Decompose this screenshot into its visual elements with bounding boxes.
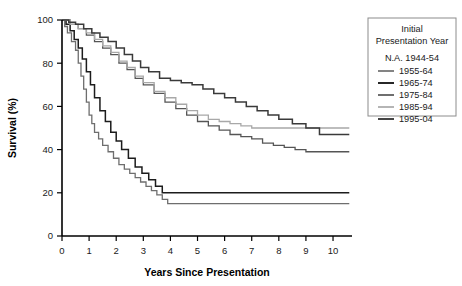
legend-label-1955-64: 1955-64 xyxy=(399,66,433,76)
x-tick-label: 4 xyxy=(168,245,173,256)
y-tick-group: 020406080100 xyxy=(37,14,62,241)
plot-area xyxy=(62,20,349,204)
y-tick-label: 60 xyxy=(42,101,53,112)
survival-chart: 020406080100 Survival (%) 012345678910 Y… xyxy=(0,0,462,286)
legend-title-line2: Presentation Year xyxy=(376,36,449,46)
x-tick-label: 2 xyxy=(114,245,119,256)
x-tick-label: 8 xyxy=(276,245,281,256)
x-tick-label: 10 xyxy=(328,245,339,256)
x-tick-label: 6 xyxy=(222,245,227,256)
y-axis-title: Survival (%) xyxy=(6,98,18,158)
x-tick-label: 0 xyxy=(59,245,64,256)
legend-item-na: N.A. 1944-54 xyxy=(385,53,439,63)
legend-label-1965-74: 1965-74 xyxy=(399,78,433,88)
x-tick-label: 5 xyxy=(195,245,200,256)
legend-label-1975-84: 1975-84 xyxy=(399,90,433,100)
legend-label-1985-94: 1985-94 xyxy=(399,102,433,112)
y-axis: 020406080100 Survival (%) xyxy=(6,14,62,241)
y-tick-label: 20 xyxy=(42,187,53,198)
x-tick-label: 3 xyxy=(141,245,146,256)
y-tick-label: 40 xyxy=(42,144,53,155)
survival-curve-1975-84 xyxy=(62,20,349,152)
legend-label-1995-04: 1995-04 xyxy=(399,114,433,124)
y-tick-label: 0 xyxy=(48,230,53,241)
legend: Initial Presentation Year N.A. 1944-54 1… xyxy=(368,18,456,124)
y-tick-label: 80 xyxy=(42,58,53,69)
x-axis-title: Years Since Presentation xyxy=(144,266,269,278)
x-tick-label: 9 xyxy=(303,245,308,256)
chart-svg: 020406080100 Survival (%) 012345678910 Y… xyxy=(0,0,462,286)
curve-group xyxy=(62,20,349,204)
x-tick-label: 7 xyxy=(249,245,254,256)
x-tick-label: 1 xyxy=(86,245,91,256)
x-axis: 012345678910 Years Since Presentation xyxy=(59,236,352,278)
x-tick-group: 012345678910 xyxy=(59,236,338,256)
legend-title-line1: Initial xyxy=(401,24,422,34)
y-tick-label: 100 xyxy=(37,14,53,25)
